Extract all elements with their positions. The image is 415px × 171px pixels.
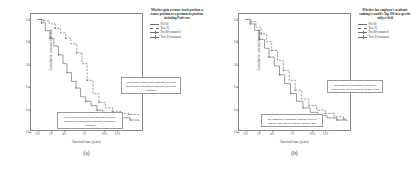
- panel-label-b: (b): [238, 150, 351, 156]
- y-tick-mark: [29, 110, 31, 111]
- x-tick-label: 4.0: [62, 132, 66, 136]
- x-tick-mark: [38, 130, 39, 132]
- x-tick-label: 2.0: [257, 132, 261, 136]
- censored-marker-icon: [302, 107, 304, 109]
- legend-swatch-icon: [150, 26, 159, 30]
- x-tick-label: 10.0: [101, 132, 106, 136]
- annotation-callout: last employer's academic ranking is out …: [261, 114, 323, 127]
- x-tick-mark: [312, 130, 313, 132]
- censored-marker-icon: [268, 56, 270, 58]
- legend-items-a: No (0)Yes (1)No (0)-censoredYes (1)-cens…: [148, 22, 206, 39]
- censored-marker-icon: [249, 23, 251, 25]
- censored-marker-icon: [342, 118, 344, 120]
- y-tick-mark: [29, 132, 31, 133]
- censored-marker-icon: [279, 74, 281, 76]
- censored-plus-icon: [361, 35, 364, 39]
- x-tick-label: 2.0: [49, 132, 53, 136]
- x-tick-label: 0.0: [244, 132, 248, 136]
- legend-entry-label: Yes (1)-censored: [369, 35, 389, 39]
- y-tick-mark: [237, 42, 239, 43]
- legend-swatch-icon: [358, 26, 367, 30]
- censored-marker-icon: [290, 93, 292, 95]
- censored-marker-icon: [282, 69, 284, 71]
- censored-marker-icon: [98, 101, 100, 103]
- y-axis-label-a: Cumulative survival function: [49, 10, 53, 90]
- censored-marker-icon: [336, 119, 338, 121]
- panel-label-a: (a): [30, 150, 143, 156]
- censored-marker-icon: [85, 100, 87, 102]
- y-tick-mark: [237, 20, 239, 21]
- censored-marker-icon: [40, 22, 42, 24]
- y-tick-mark: [29, 20, 31, 21]
- x-tick-mark: [246, 130, 247, 132]
- legend-a: Whether gain a tenure-track position, a …: [148, 8, 206, 39]
- legend-entry: Yes (1)-censored: [358, 35, 414, 39]
- x-tick-label: 0.0: [36, 132, 40, 136]
- censored-plus-icon: [361, 31, 364, 35]
- censored-marker-icon: [128, 114, 130, 116]
- legend-entry: Yes (1)-censored: [150, 35, 206, 39]
- x-tick-label: 7.0: [82, 132, 86, 136]
- censored-marker-icon: [76, 52, 78, 54]
- x-tick-mark: [117, 130, 118, 132]
- legend-title-a: Whether gain a tenure-track position, a …: [148, 8, 206, 22]
- censored-marker-icon: [129, 119, 131, 121]
- censored-plus-icon: [153, 35, 156, 39]
- x-tick-label: 7.0: [290, 132, 294, 136]
- legend-swatch-icon: [150, 22, 159, 26]
- panel-b: Cumulative survival function 0.00.20.40.…: [208, 0, 415, 171]
- x-tick-label: 12.0: [323, 132, 328, 136]
- censored-marker-icon: [324, 112, 326, 114]
- censored-marker-icon: [86, 79, 88, 81]
- censored-marker-icon: [57, 54, 59, 56]
- annotation-callout: Have gain a tenure-track position, a ten…: [121, 77, 181, 94]
- censored-marker-icon: [66, 72, 68, 74]
- y-tick-mark: [237, 87, 239, 88]
- y-tick-mark: [29, 87, 31, 88]
- y-tick-mark: [237, 65, 239, 66]
- plot-area-b: Cumulative survival function 0.00.20.40.…: [238, 13, 351, 131]
- x-tick-mark: [84, 130, 85, 132]
- x-tick-mark: [64, 130, 65, 132]
- y-tick-mark: [237, 132, 239, 133]
- legend-swatch-icon: [358, 35, 367, 39]
- legend-swatch-icon: [150, 35, 159, 39]
- x-tick-mark: [272, 130, 273, 132]
- censored-marker-icon: [65, 37, 67, 39]
- x-tick-mark: [292, 130, 293, 132]
- y-tick-mark: [29, 65, 31, 66]
- x-tick-label: 4.0: [270, 132, 274, 136]
- plot-area-a: Cumulative survival function 0.00.20.40.…: [30, 13, 143, 131]
- y-axis-label-b: Cumulative survival function: [257, 10, 261, 90]
- x-tick-mark: [51, 130, 52, 132]
- panel-a: Cumulative survival function 0.00.20.40.…: [0, 0, 207, 171]
- legend-items-b: No (0)Yes (1)No (0)-censoredYes (1)-cens…: [356, 22, 414, 39]
- x-tick-label: 10.0: [309, 132, 314, 136]
- legend-entry-label: Yes (1)-censored: [161, 35, 181, 39]
- censored-marker-icon: [271, 49, 273, 51]
- x-axis-label-a: Survival time (years): [30, 140, 143, 144]
- annotation-callout: last employer's academic ranking is worl…: [327, 80, 383, 93]
- legend-swatch-icon: [358, 31, 367, 35]
- censored-marker-icon: [75, 87, 77, 89]
- censored-marker-icon: [294, 89, 296, 91]
- censored-marker-icon: [54, 27, 56, 29]
- legend-title-b: Whether last employer's academic ranking…: [356, 8, 414, 22]
- x-axis-label-b: Survival time (years): [238, 140, 351, 144]
- annotation-callout: Never gain a tenure-track position, a te…: [57, 112, 123, 129]
- x-tick-mark: [259, 130, 260, 132]
- y-tick-mark: [29, 42, 31, 43]
- x-tick-mark: [325, 130, 326, 132]
- censored-marker-icon: [96, 109, 98, 111]
- censored-plus-icon: [153, 31, 156, 35]
- legend-swatch-icon: [150, 31, 159, 35]
- legend-swatch-icon: [358, 22, 367, 26]
- km-curves-b: [239, 14, 350, 130]
- legend-b: Whether last employer's academic ranking…: [356, 8, 414, 39]
- x-tick-mark: [104, 130, 105, 132]
- y-tick-mark: [237, 110, 239, 111]
- x-tick-label: 12.0: [115, 132, 120, 136]
- censored-marker-icon: [308, 105, 310, 107]
- figure-container: Cumulative survival function 0.00.20.40.…: [0, 0, 415, 171]
- censored-marker-icon: [42, 20, 44, 22]
